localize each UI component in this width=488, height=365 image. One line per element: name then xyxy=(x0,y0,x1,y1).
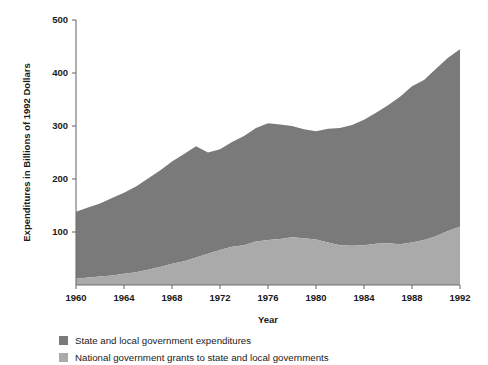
legend-item-state-local: State and local government expenditures xyxy=(59,333,479,348)
area-chart-plot: 1002003004005001960196419681972197619801… xyxy=(0,0,488,330)
svg-text:1960: 1960 xyxy=(65,292,86,303)
svg-text:1976: 1976 xyxy=(257,292,278,303)
legend-label-state-local: State and local government expenditures xyxy=(75,335,251,346)
svg-text:Year: Year xyxy=(258,314,278,325)
svg-text:100: 100 xyxy=(52,226,68,237)
svg-text:300: 300 xyxy=(52,120,68,131)
legend-item-national-grants: National government grants to state and … xyxy=(59,350,479,365)
svg-text:1980: 1980 xyxy=(305,292,326,303)
svg-text:1988: 1988 xyxy=(401,292,422,303)
chart-legend: State and local government expenditures … xyxy=(59,333,479,365)
svg-text:400: 400 xyxy=(52,67,68,78)
svg-text:1972: 1972 xyxy=(209,292,230,303)
svg-text:1992: 1992 xyxy=(449,292,470,303)
area-series-group xyxy=(76,49,460,285)
chart-figure: 1002003004005001960196419681972197619801… xyxy=(0,0,488,365)
svg-text:1968: 1968 xyxy=(161,292,182,303)
svg-text:Expenditures in Billions of 19: Expenditures in Billions of 1992 Dollars xyxy=(21,63,32,241)
svg-text:500: 500 xyxy=(52,14,68,25)
legend-swatch-national-grants xyxy=(59,353,68,362)
svg-text:1984: 1984 xyxy=(353,292,375,303)
svg-text:1964: 1964 xyxy=(113,292,135,303)
legend-swatch-state-local xyxy=(59,336,68,345)
legend-label-national-grants: National government grants to state and … xyxy=(75,352,329,363)
svg-text:200: 200 xyxy=(52,173,68,184)
